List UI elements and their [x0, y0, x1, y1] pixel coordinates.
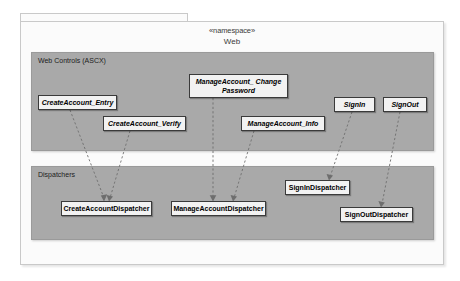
node-label: CreateAccount_Verify — [105, 119, 184, 128]
node-manageaccountdispatcher[interactable]: ManageAccountDispatcher — [171, 201, 266, 216]
node-label: CreateAccount_Entry — [39, 98, 117, 107]
node-manageaccount-changepassword[interactable]: ManageAccount_ Change Password — [189, 74, 288, 98]
node-createaccount-verify[interactable]: CreateAccount_Verify — [103, 116, 186, 131]
node-label: ManageAccountDispatcher — [170, 204, 266, 213]
package-name: Web — [20, 37, 444, 47]
node-label: ManageAccount_ Change Password — [193, 77, 285, 95]
node-signin[interactable]: SignIn — [334, 97, 375, 112]
node-createaccountdispatcher[interactable]: CreateAccountDispatcher — [61, 201, 152, 216]
node-createaccount-entry[interactable]: CreateAccount_Entry — [38, 95, 117, 110]
node-label: SignIn — [341, 100, 368, 109]
layer-web-controls-label: Web Controls (ASCX) — [38, 57, 106, 64]
node-label: SignOut — [388, 100, 421, 109]
layer-dispatchers-label: Dispatchers — [38, 171, 75, 178]
package-stereotype: «namespace» — [20, 26, 444, 36]
uml-package-diagram: «namespace» Web — [0, 0, 460, 281]
node-label: SignInDispatcher — [286, 183, 350, 192]
package-heading: «namespace» Web — [20, 26, 444, 47]
node-label: ManageAccount_Info — [245, 119, 322, 128]
node-label: CreateAccountDispatcher — [61, 204, 153, 213]
node-signout[interactable]: SignOut — [383, 97, 427, 112]
node-label: SignOutDispatcher — [342, 210, 411, 219]
node-signindispatcher[interactable]: SignInDispatcher — [285, 180, 350, 195]
node-manageaccount-info[interactable]: ManageAccount_Info — [241, 116, 325, 131]
node-signoutdispatcher[interactable]: SignOutDispatcher — [340, 207, 413, 222]
